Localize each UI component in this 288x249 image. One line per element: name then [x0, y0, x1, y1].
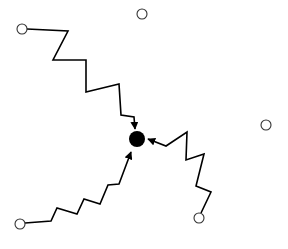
random-walk-diagram [0, 0, 288, 249]
center-node [129, 131, 145, 147]
node-top [137, 9, 147, 19]
node-bottom-left [15, 219, 25, 229]
diagram-svg [0, 0, 288, 249]
walk-paths [25, 29, 211, 223]
path-bottom-left [25, 152, 131, 223]
path-bottom-right [148, 132, 211, 213]
node-right [261, 120, 271, 130]
node-top-left [17, 24, 27, 34]
node-bottom-right [194, 213, 204, 223]
nodes [15, 9, 271, 229]
path-top-left [27, 29, 135, 129]
